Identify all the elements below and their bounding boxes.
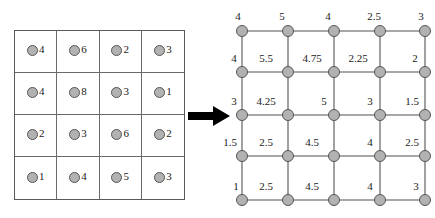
- cell-dot-icon: [27, 45, 38, 56]
- cell-value: 2: [39, 128, 45, 139]
- cell-dot-icon: [27, 172, 38, 183]
- node-value: 2.5: [367, 11, 381, 22]
- cell-dot-icon: [27, 87, 38, 98]
- lattice-node: [282, 150, 294, 162]
- node-value: 1: [233, 181, 239, 192]
- cell-dot-icon: [111, 45, 122, 56]
- lattice-node: [328, 25, 340, 37]
- cell-dot-icon: [154, 172, 165, 183]
- node-value: 4: [235, 11, 241, 22]
- lattice-node: [236, 150, 248, 162]
- lattice-node: [328, 66, 340, 78]
- lattice-node: [282, 25, 294, 37]
- grid-cell: 2: [100, 31, 142, 73]
- lattice-node: [419, 66, 431, 78]
- lattice-node: [282, 194, 294, 206]
- grid-cell: 3: [142, 157, 184, 199]
- node-value: 3: [367, 96, 373, 107]
- node-value: 4.75: [302, 53, 321, 64]
- lattice-node: [236, 109, 248, 121]
- cell-value: 3: [81, 128, 87, 139]
- node-value: 2.5: [259, 137, 273, 148]
- cell-value: 8: [81, 86, 87, 97]
- cell-value: 1: [39, 171, 45, 182]
- cell-value: 1: [166, 86, 172, 97]
- right-arrow-icon: [188, 106, 230, 126]
- cell-dot-icon: [111, 87, 122, 98]
- figure-diagram: 4 6 2 3 4: [0, 0, 435, 218]
- grid-cell: 1: [15, 157, 57, 199]
- node-value: 3: [413, 181, 419, 192]
- grid-cell: 5: [100, 157, 142, 199]
- node-value: 3: [231, 96, 237, 107]
- cell-dot-icon: [154, 87, 165, 98]
- node-value: 2.5: [259, 181, 273, 192]
- node-value: 5: [321, 96, 327, 107]
- cell-dot-icon: [154, 45, 165, 56]
- node-value: 4.5: [305, 181, 319, 192]
- node-value: 2.25: [348, 53, 367, 64]
- node-lattice: 4 5 4 2.5 3 4 5.5 4.75 2.25 2 3 4.25 5 3…: [226, 6, 435, 218]
- lattice-node: [374, 66, 386, 78]
- node-value: 4.5: [305, 137, 319, 148]
- cell-grid: 4 6 2 3 4: [14, 30, 185, 200]
- cell-value: 3: [166, 44, 172, 55]
- grid-cell: 8: [57, 73, 99, 115]
- node-value: 2.5: [405, 137, 419, 148]
- cell-value: 3: [166, 171, 172, 182]
- lattice-node: [328, 150, 340, 162]
- lattice-node: [419, 150, 431, 162]
- grid-cell: 6: [100, 115, 142, 157]
- cell-dot-icon: [69, 129, 80, 140]
- lattice-node: [374, 150, 386, 162]
- cell-value: 4: [81, 171, 87, 182]
- grid-cell: 2: [142, 115, 184, 157]
- cell-value: 4: [39, 86, 45, 97]
- lattice-node: [419, 25, 431, 37]
- lattice-node: [236, 25, 248, 37]
- node-value: 4.25: [256, 96, 275, 107]
- grid-cell: 4: [15, 31, 57, 73]
- lattice-node: [236, 66, 248, 78]
- node-value: 4: [367, 137, 373, 148]
- grid-cell: 4: [15, 73, 57, 115]
- node-value: 4: [367, 181, 373, 192]
- lattice-node: [282, 109, 294, 121]
- lattice-node: [374, 194, 386, 206]
- grid-cell: 1: [142, 73, 184, 115]
- grid-cell: 3: [142, 31, 184, 73]
- node-value: 5: [279, 11, 285, 22]
- lattice-node: [236, 194, 248, 206]
- cell-value: 6: [81, 44, 87, 55]
- cell-dot-icon: [69, 87, 80, 98]
- node-value: 2: [412, 53, 418, 64]
- cell-value: 3: [123, 86, 129, 97]
- cell-dot-icon: [69, 172, 80, 183]
- cell-dot-icon: [111, 172, 122, 183]
- grid-cell: 6: [57, 31, 99, 73]
- node-value: 4: [325, 11, 331, 22]
- lattice-node: [282, 66, 294, 78]
- lattice-node: [374, 25, 386, 37]
- grid-cell: 4: [57, 157, 99, 199]
- lattice-node: [328, 194, 340, 206]
- cell-value: 6: [123, 128, 129, 139]
- cell-value: 4: [39, 44, 45, 55]
- node-value: 5.5: [259, 53, 273, 64]
- grid-cell: 3: [57, 115, 99, 157]
- cell-dot-icon: [69, 45, 80, 56]
- node-value: 4: [231, 53, 237, 64]
- cell-dot-icon: [27, 129, 38, 140]
- cell-dot-icon: [154, 129, 165, 140]
- cell-value: 5: [123, 171, 129, 182]
- lattice-node: [374, 109, 386, 121]
- node-value: 1.5: [405, 96, 419, 107]
- node-value: 3: [418, 11, 424, 22]
- grid-cell: 3: [100, 73, 142, 115]
- cell-dot-icon: [111, 129, 122, 140]
- node-value: 1.5: [223, 137, 237, 148]
- grid-cell: 2: [15, 115, 57, 157]
- lattice-node: [419, 194, 431, 206]
- lattice-node: [419, 109, 431, 121]
- lattice-node: [328, 109, 340, 121]
